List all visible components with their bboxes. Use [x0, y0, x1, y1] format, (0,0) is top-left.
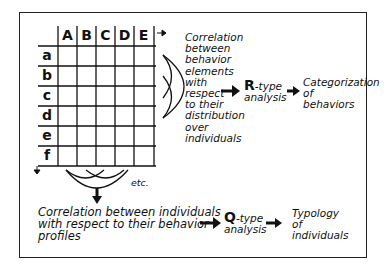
row-header: f [37, 147, 57, 163]
row-header: e [37, 127, 57, 143]
column-header: A [58, 27, 77, 43]
r-correlation-text: Correlation between behavior elements wi… [185, 32, 245, 144]
q-type-suffix: -type [236, 212, 263, 224]
q-correlation-text: Correlation between individuals with res… [38, 206, 221, 242]
q-result-text: Typology of individuals [292, 208, 348, 242]
row-header: d [37, 107, 57, 123]
column-header: B [77, 27, 96, 43]
r-result-text: Categorization of behaviors [303, 77, 380, 111]
row-header: c [37, 87, 57, 103]
row-header: a [37, 47, 57, 63]
column-header: E [134, 27, 153, 43]
r-type-suffix: -type [255, 80, 282, 92]
q-analysis-word: analysis [224, 223, 267, 235]
q-type-analysis: Q-typeanalysis [224, 212, 267, 235]
r-type-analysis: R-typeanalysis [244, 80, 287, 103]
column-header: D [115, 27, 134, 43]
row-header: b [37, 67, 57, 83]
q-etc-label: etc. [131, 177, 149, 188]
r-analysis-word: analysis [244, 91, 287, 103]
column-header: C [96, 27, 115, 43]
